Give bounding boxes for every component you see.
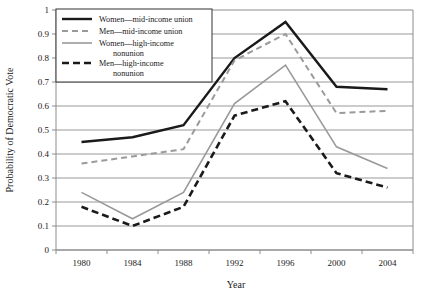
y-tick-label: 0.2 [38, 197, 49, 207]
legend-label-2: Women—high-income [99, 39, 174, 48]
y-tick-label: 0.3 [38, 173, 50, 183]
legend-label-3-cont: nonunion [113, 69, 144, 78]
legend: Women—mid-income unionMen—mid-income uni… [56, 9, 212, 82]
chart-figure: 00.10.20.30.40.50.60.70.80.91 1980198419… [0, 0, 421, 296]
y-tick-label: 0 [45, 245, 50, 255]
y-axis-title: Probability of Democratic Vote [4, 67, 15, 192]
y-tick-label: 0.6 [38, 101, 50, 111]
x-tick-label: 1988 [175, 258, 194, 268]
x-tick-label: 1984 [124, 258, 143, 268]
y-tick-label: 0.9 [38, 29, 50, 39]
y-tick-label: 0.5 [38, 125, 50, 135]
legend-label-2-cont: nonunion [113, 49, 144, 58]
x-tick-label: 1992 [226, 258, 244, 268]
x-tick-label: 1980 [73, 258, 92, 268]
x-tick-label: 2004 [379, 258, 398, 268]
y-tick-group: 00.10.20.30.40.50.60.70.80.91 [38, 5, 56, 255]
series-line-3 [82, 101, 388, 226]
y-tick-label: 0.4 [38, 149, 50, 159]
y-tick-label: 1 [45, 5, 50, 15]
legend-label-0: Women—mid-income union [99, 15, 193, 24]
legend-label-1: Men—mid-income union [99, 27, 182, 36]
x-tick-label: 2000 [328, 258, 347, 268]
legend-label-3: Men—high-income [99, 59, 164, 68]
x-tick-label: 1996 [277, 258, 296, 268]
x-axis-title: Year [227, 279, 246, 290]
y-tick-label: 0.1 [38, 221, 49, 231]
y-tick-label: 0.7 [38, 77, 50, 87]
chart-svg: 00.10.20.30.40.50.60.70.80.91 1980198419… [0, 0, 421, 296]
x-tick-group: 1980198419881992199620002004 [56, 250, 413, 268]
y-tick-label: 0.8 [38, 53, 50, 63]
